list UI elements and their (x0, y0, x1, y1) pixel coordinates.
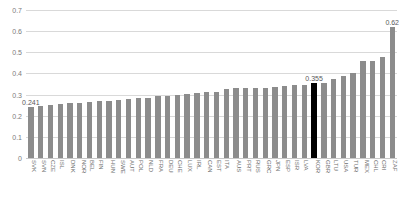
bar-slot (85, 10, 95, 158)
bar[interactable] (360, 61, 365, 158)
bar-slot (260, 10, 270, 158)
bar-slot (378, 10, 388, 158)
bar-slot (290, 10, 300, 158)
x-axis-tick: TUR (348, 158, 358, 200)
bar[interactable] (28, 107, 33, 158)
bar[interactable] (243, 88, 248, 158)
bar[interactable] (136, 98, 141, 158)
y-axis-tick-label: 0 (18, 155, 22, 162)
bar-slot (212, 10, 222, 158)
bar-slot (358, 10, 368, 158)
bar[interactable] (380, 57, 385, 158)
bar-slot (231, 10, 241, 158)
bar-slot (241, 10, 251, 158)
bar[interactable] (194, 93, 199, 158)
bar-slot (46, 10, 56, 158)
bar[interactable] (204, 92, 209, 158)
bar-slot: 0.355 (309, 10, 319, 158)
bar-slot (114, 10, 124, 158)
bar[interactable] (341, 76, 346, 158)
x-axis-tick-label: ITA (225, 160, 231, 169)
bar-slot (36, 10, 46, 158)
x-axis: SVKSVNCZEISLDNKNORBELFINHUNSWEAUTPOLNLDF… (26, 158, 397, 200)
bar-slot (94, 10, 104, 158)
bar-slot (75, 10, 85, 158)
x-axis-tick: NLD (143, 158, 153, 200)
x-axis-tick: ITA (221, 158, 231, 200)
bar[interactable] (165, 96, 170, 158)
bar[interactable] (116, 100, 121, 158)
x-axis-tick: ISR (290, 158, 300, 200)
x-axis-tick: AUT (124, 158, 134, 200)
bar-chart: 0.70.60.50.40.30.20.10 0.2410.3550.62 SV… (0, 0, 399, 200)
bar[interactable] (87, 102, 92, 158)
x-axis-tick: POL (133, 158, 143, 200)
y-axis: 0.70.60.50.40.30.20.10 (0, 0, 26, 162)
x-axis-tick: SWE (114, 158, 124, 200)
x-axis-tick: EST (212, 158, 222, 200)
bar[interactable] (390, 27, 395, 158)
bar[interactable] (48, 105, 53, 158)
bar-slot (368, 10, 378, 158)
x-axis-tick: GRC (260, 158, 270, 200)
x-axis-tick: PRT (241, 158, 251, 200)
bar[interactable] (184, 94, 189, 158)
x-axis-tick: CHE (172, 158, 182, 200)
bar[interactable] (321, 83, 326, 158)
bar[interactable] (224, 89, 229, 158)
bar[interactable] (145, 98, 150, 158)
bar[interactable] (282, 86, 287, 158)
x-axis-tick: SVK (26, 158, 36, 200)
bar[interactable] (253, 88, 258, 158)
bar-slot (299, 10, 309, 158)
bar[interactable] (263, 88, 268, 158)
bar[interactable] (67, 103, 72, 158)
bar[interactable] (331, 79, 336, 158)
x-axis-tick: CRI (378, 158, 388, 200)
x-axis-tick: DEU (163, 158, 173, 200)
bar-highlighted[interactable] (311, 83, 316, 158)
x-axis-tick: FIN (94, 158, 104, 200)
x-axis-tick: LTU (329, 158, 339, 200)
bar-slot (192, 10, 202, 158)
bar[interactable] (350, 73, 355, 158)
bar[interactable] (106, 101, 111, 159)
bar[interactable] (272, 87, 277, 158)
bar[interactable] (38, 106, 43, 158)
bar[interactable] (233, 88, 238, 158)
x-axis-tick: RUS (251, 158, 261, 200)
bar[interactable] (97, 101, 102, 158)
bar[interactable] (175, 95, 180, 158)
bar-slot (339, 10, 349, 158)
bar-slot (280, 10, 290, 158)
y-axis-tick-label: 0.7 (12, 7, 22, 14)
x-axis-tick: ESP (280, 158, 290, 200)
bar-slot (270, 10, 280, 158)
bar-slot (221, 10, 231, 158)
bar-slot (153, 10, 163, 158)
bar[interactable] (214, 92, 219, 158)
y-axis-tick-label: 0.5 (12, 49, 22, 56)
y-axis-tick-label: 0.6 (12, 28, 22, 35)
x-axis-tick: CHL (368, 158, 378, 200)
x-axis-tick: DNK (65, 158, 75, 200)
x-axis-tick: ZAF (387, 158, 397, 200)
bar[interactable] (302, 85, 307, 158)
x-axis-tick-label: IRL (196, 160, 202, 169)
x-axis-tick: CZE (46, 158, 56, 200)
bar-slot (348, 10, 358, 158)
bar[interactable] (292, 85, 297, 158)
x-axis-tick: MEX (358, 158, 368, 200)
bar-slot (182, 10, 192, 158)
bar[interactable] (126, 99, 131, 158)
y-axis-tick-label: 0.1 (12, 133, 22, 140)
bar-slot (329, 10, 339, 158)
bar-slot (133, 10, 143, 158)
plot-area: 0.2410.3550.62 (26, 10, 397, 158)
x-axis-tick: NOR (75, 158, 85, 200)
bar[interactable] (77, 103, 82, 158)
bar[interactable] (58, 104, 63, 158)
bar[interactable] (370, 61, 375, 158)
bar[interactable] (155, 96, 160, 158)
x-axis-tick: JPN (270, 158, 280, 200)
